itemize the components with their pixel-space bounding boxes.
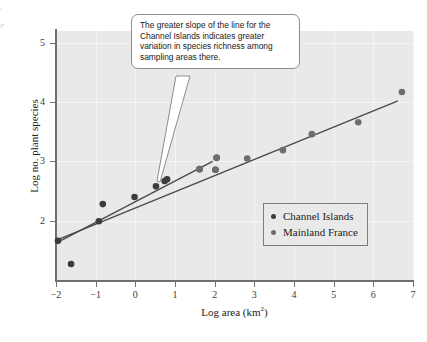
margin-text-fragment-line1: f — [0, 6, 1, 16]
x-axis-tick — [413, 282, 414, 287]
x-axis-tick — [56, 282, 57, 287]
annotation-callout: The greater slope of the line for the Ch… — [131, 14, 300, 69]
x-axis-tick — [175, 282, 176, 287]
gridline-vertical — [373, 31, 374, 280]
x-axis-tick — [215, 282, 216, 287]
legend-item-label: Mainland France — [283, 226, 358, 238]
legend-item: Mainland France — [271, 224, 358, 240]
legend-item-label: Channel Islands — [283, 210, 354, 222]
y-axis-tick — [50, 221, 55, 222]
gridline-vertical — [96, 31, 97, 280]
y-axis-tick — [50, 161, 55, 162]
x-axis-tick-label: 5 — [324, 289, 344, 300]
x-axis-tick-label: 4 — [284, 289, 304, 300]
x-axis-tick — [96, 282, 97, 287]
legend-marker-icon — [271, 230, 276, 235]
y-axis-tick — [50, 102, 55, 103]
y-axis-tick-label: 5 — [31, 37, 45, 48]
x-axis-tick — [294, 282, 295, 287]
y-axis-title: Log no. plant species — [28, 66, 40, 226]
margin-text-fragment-line2: or — [0, 20, 4, 30]
x-axis-tick-label: 3 — [244, 289, 264, 300]
x-axis-title: Log area (km2) — [56, 305, 413, 318]
x-axis-tick-label: 6 — [363, 289, 383, 300]
x-axis-line — [55, 280, 414, 282]
x-axis-tick-label: −1 — [86, 289, 106, 300]
x-axis-tick — [135, 282, 136, 287]
x-axis-tick-label: 0 — [125, 289, 145, 300]
gridline-horizontal — [56, 102, 413, 103]
legend-marker-icon — [271, 214, 276, 219]
y-axis-tick-label: 4 — [31, 96, 45, 107]
annotation-callout-text: The greater slope of the line for the Ch… — [140, 20, 292, 62]
x-axis-tick-label: 7 — [403, 289, 423, 300]
x-axis-tick — [254, 282, 255, 287]
x-axis-tick — [373, 282, 374, 287]
gridline-horizontal — [56, 161, 413, 162]
legend: Channel IslandsMainland France — [263, 203, 368, 246]
legend-item: Channel Islands — [271, 208, 358, 224]
x-axis-tick-label: 1 — [165, 289, 185, 300]
x-axis-tick — [334, 282, 335, 287]
y-axis-tick-label: 2 — [31, 215, 45, 226]
y-axis-tick-label: 3 — [31, 155, 45, 166]
y-axis-tick — [50, 43, 55, 44]
species-area-figure: f or Log area (km2) Log no. plant specie… — [0, 0, 427, 342]
x-axis-tick-label: −2 — [46, 289, 66, 300]
gridline-vertical — [413, 31, 414, 280]
y-axis-line — [55, 29, 57, 282]
x-axis-tick-label: 2 — [205, 289, 225, 300]
